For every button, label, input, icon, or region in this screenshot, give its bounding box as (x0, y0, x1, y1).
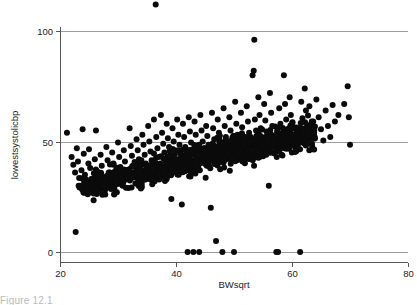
data-point (81, 151, 87, 157)
data-point (188, 174, 194, 180)
data-point (327, 134, 333, 140)
data-point (167, 153, 173, 159)
x-tick-label-20: 20 (55, 268, 66, 279)
data-point (258, 125, 264, 131)
data-point (193, 158, 199, 164)
y-tick-label-0: 0 (48, 247, 53, 258)
data-point (100, 174, 106, 180)
data-point (161, 150, 167, 156)
data-point (77, 183, 83, 189)
data-point (166, 144, 172, 150)
data-point (174, 116, 180, 122)
data-point (101, 183, 107, 189)
data-point (335, 112, 341, 118)
data-point (117, 164, 123, 170)
data-point (153, 134, 159, 140)
data-point (231, 249, 237, 255)
data-point (244, 103, 250, 109)
data-point (247, 139, 253, 145)
data-point (163, 158, 169, 164)
data-point (135, 147, 141, 153)
data-point (260, 143, 266, 149)
data-point (347, 142, 353, 148)
data-point (132, 180, 138, 186)
data-point (116, 154, 122, 160)
data-point (204, 133, 210, 139)
data-point (309, 119, 315, 125)
data-point (223, 134, 229, 140)
data-point (180, 169, 186, 175)
y-tick-label-50: 50 (42, 137, 53, 148)
data-point-group (64, 1, 353, 255)
data-point (222, 123, 228, 129)
data-point (259, 134, 265, 140)
data-point (105, 157, 111, 163)
data-point (281, 72, 287, 78)
data-point (87, 165, 93, 171)
data-point (109, 150, 115, 156)
data-point (146, 139, 152, 145)
data-point (234, 132, 240, 138)
data-point (217, 140, 223, 146)
data-point (154, 145, 160, 151)
data-point (216, 130, 222, 136)
data-point (170, 125, 176, 131)
data-point (275, 249, 281, 255)
data-point (168, 196, 174, 202)
data-point (267, 90, 273, 96)
data-point (277, 121, 283, 127)
data-point (176, 142, 182, 148)
data-point (82, 172, 88, 178)
data-point (226, 114, 232, 120)
data-point (346, 114, 352, 120)
data-point (199, 127, 205, 133)
data-point (188, 140, 194, 146)
data-point (156, 154, 162, 160)
data-point (246, 130, 252, 136)
data-point (91, 197, 97, 203)
data-point (195, 152, 201, 158)
data-point (290, 136, 296, 142)
data-point (156, 172, 162, 178)
data-point (320, 137, 326, 143)
data-point (192, 119, 198, 125)
data-point (227, 168, 233, 174)
data-point (262, 118, 268, 124)
data-point (72, 169, 78, 175)
data-point (69, 154, 75, 160)
data-point (149, 157, 155, 163)
data-point (270, 133, 276, 139)
data-point (302, 85, 308, 91)
data-point (122, 158, 128, 164)
data-point (98, 152, 104, 158)
data-point (255, 94, 261, 100)
data-point (92, 156, 98, 162)
data-point (80, 126, 86, 132)
data-point (301, 127, 307, 133)
data-point (207, 151, 213, 157)
data-point (128, 143, 134, 149)
data-point (213, 238, 219, 244)
data-point (175, 132, 181, 138)
x-axis-label: BWsqrt (218, 279, 250, 290)
data-point (93, 127, 99, 133)
data-point (297, 249, 303, 255)
data-point (221, 105, 227, 111)
data-point (113, 180, 119, 186)
data-point (316, 114, 322, 120)
data-point (274, 127, 280, 133)
data-point (194, 143, 200, 149)
data-point (131, 172, 137, 178)
data-point (341, 101, 347, 107)
data-point (107, 178, 113, 184)
data-point (200, 139, 206, 145)
data-point (279, 132, 285, 138)
data-point (127, 125, 133, 131)
data-point (179, 201, 185, 207)
data-point (86, 146, 92, 152)
data-point (266, 183, 272, 189)
y-tick-group: 050100 (37, 26, 60, 258)
data-point (305, 133, 311, 139)
data-point (268, 110, 274, 116)
